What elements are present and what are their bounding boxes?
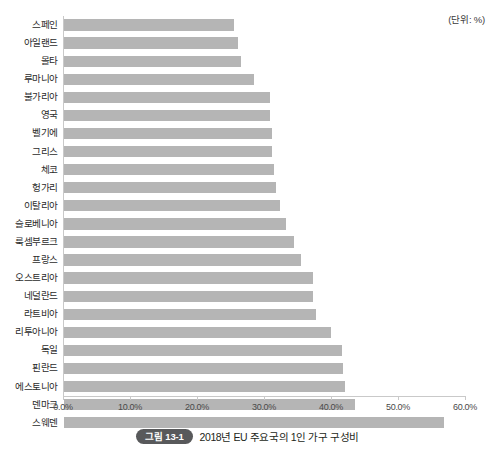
bar-track (64, 233, 466, 251)
bar-row: 네덜란드 (0, 287, 495, 305)
bar-category-label: 프랑스 (0, 251, 58, 269)
bar-track (64, 88, 466, 106)
bar-track (64, 323, 466, 341)
bar (64, 417, 444, 428)
bar-row: 에스토니아 (0, 378, 495, 396)
bar-row: 몰타 (0, 52, 495, 70)
bar-row: 라트비아 (0, 305, 495, 323)
x-tick-label: 50.0% (386, 402, 410, 412)
bar (64, 146, 272, 157)
bar-category-label: 체코 (0, 161, 58, 179)
bar (64, 254, 301, 265)
bar (64, 92, 270, 103)
bar-track (64, 179, 466, 197)
bar (64, 182, 276, 193)
bar-row: 헝가리 (0, 179, 495, 197)
bar-category-label: 룩셈부르크 (0, 233, 58, 251)
bar-track (64, 251, 466, 269)
bar-category-label: 덴마크 (0, 396, 58, 414)
bar-track (64, 305, 466, 323)
bar-track (64, 269, 466, 287)
bar-rows: 스페인아일랜드몰타루마니아불가리아영국벨기에그리스체코헝가리이탈리아슬로베니아룩… (0, 16, 495, 396)
bar (64, 164, 274, 175)
x-tick-mark (398, 396, 399, 400)
bar-category-label: 몰타 (0, 52, 58, 70)
bar-category-label: 스페인 (0, 16, 58, 34)
bar-row: 이탈리아 (0, 197, 495, 215)
x-tick-label: 0.0% (53, 402, 72, 412)
bar-row: 독일 (0, 341, 495, 359)
bar-category-label: 그리스 (0, 143, 58, 161)
bar-row: 불가리아 (0, 88, 495, 106)
bar-category-label: 에스토니아 (0, 378, 58, 396)
bar-track (64, 143, 466, 161)
bar-track (64, 215, 466, 233)
x-tick-mark (264, 396, 265, 400)
x-tick-mark (465, 396, 466, 400)
bar-category-label: 독일 (0, 341, 58, 359)
bar-row: 영국 (0, 106, 495, 124)
figure-caption: 그림 13-1 2018년 EU 주요국의 1인 가구 구성비 (0, 429, 495, 444)
bar (64, 327, 331, 338)
bar (64, 128, 272, 139)
bar (64, 236, 294, 247)
bar-track (64, 124, 466, 142)
bar (64, 291, 313, 302)
bar-track (64, 359, 466, 377)
bar-category-label: 아일랜드 (0, 34, 58, 52)
x-tick-label: 30.0% (252, 402, 276, 412)
bar (64, 345, 342, 356)
bar-category-label: 네덜란드 (0, 287, 58, 305)
x-tick-label: 20.0% (185, 402, 209, 412)
bar-category-label: 벨기에 (0, 124, 58, 142)
bar-track (64, 341, 466, 359)
x-tick-mark (63, 396, 64, 400)
bar-category-label: 슬로베니아 (0, 215, 58, 233)
bar (64, 218, 286, 229)
x-tick-label: 60.0% (453, 402, 477, 412)
bar-row: 프랑스 (0, 251, 495, 269)
bar (64, 37, 238, 48)
bar-row: 체코 (0, 161, 495, 179)
x-tick-label: 10.0% (118, 402, 142, 412)
bar-row: 벨기에 (0, 124, 495, 142)
bar-category-label: 영국 (0, 106, 58, 124)
bar-row: 그리스 (0, 143, 495, 161)
caption-badge: 그림 13-1 (136, 429, 192, 444)
bar-track (64, 52, 466, 70)
bar-track (64, 70, 466, 88)
bar-row: 핀란드 (0, 359, 495, 377)
figure-container: (단위: %) 스페인아일랜드몰타루마니아불가리아영국벨기에그리스체코헝가리이탈… (0, 0, 495, 455)
caption-text: 2018년 EU 주요국의 1인 가구 구성비 (200, 429, 359, 444)
bar-track (64, 197, 466, 215)
bar-track (64, 161, 466, 179)
bar (64, 272, 313, 283)
x-tick-label: 40.0% (319, 402, 343, 412)
bar-category-label: 핀란드 (0, 359, 58, 377)
bar-row: 오스트리아 (0, 269, 495, 287)
bar-category-label: 루마니아 (0, 70, 58, 88)
bar (64, 309, 316, 320)
x-tick-mark (197, 396, 198, 400)
bar-track (64, 106, 466, 124)
x-tick-mark (130, 396, 131, 400)
bar-category-label: 불가리아 (0, 88, 58, 106)
bar-category-label: 헝가리 (0, 179, 58, 197)
bar-track (64, 287, 466, 305)
bar-track (64, 378, 466, 396)
bar-row: 아일랜드 (0, 34, 495, 52)
bar (64, 110, 270, 121)
bar (64, 19, 234, 30)
bar-track (64, 16, 466, 34)
bar (64, 363, 343, 374)
bar-row: 룩셈부르크 (0, 233, 495, 251)
bar (64, 381, 345, 392)
x-tick-mark (331, 396, 332, 400)
bar-row: 스페인 (0, 16, 495, 34)
bar-row: 루마니아 (0, 70, 495, 88)
x-axis: 0.0%10.0%20.0%30.0%40.0%50.0%60.0% (63, 396, 465, 418)
bar-category-label: 라트비아 (0, 305, 58, 323)
bar-category-label: 리투아니아 (0, 323, 58, 341)
bar (64, 200, 280, 211)
bar-category-label: 오스트리아 (0, 269, 58, 287)
